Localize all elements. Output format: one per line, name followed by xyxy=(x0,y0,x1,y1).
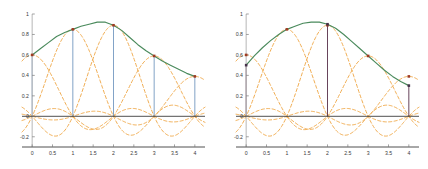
y-tick-label: 0.4 xyxy=(22,72,29,78)
y-tick-label: 0.2 xyxy=(22,93,29,99)
x-tick-label: 2.5 xyxy=(344,150,351,156)
y-tick-label: 1 xyxy=(26,11,29,17)
x-tick-label: 4 xyxy=(193,150,196,156)
x-tick-label: 1 xyxy=(285,150,288,156)
y-tick-label: 0.8 xyxy=(236,31,243,37)
plot-canvas-left: 00.511.522.533.54-0.200.20.40.60.81 xyxy=(0,0,214,169)
sample-marker xyxy=(153,55,156,58)
y-tick-label: 0.8 xyxy=(22,31,29,37)
sample-marker xyxy=(72,28,75,31)
sample-marker xyxy=(245,54,248,57)
x-tick-label: 3.5 xyxy=(385,150,392,156)
sample-marker xyxy=(367,55,370,58)
x-tick-label: 2 xyxy=(326,150,329,156)
plot-panel-left: 00.511.522.533.54-0.200.20.40.60.81 xyxy=(0,0,214,169)
x-tick-label: 0 xyxy=(31,150,34,156)
x-tick-label: 3 xyxy=(367,150,370,156)
x-tick-label: 2.5 xyxy=(130,150,137,156)
y-tick-label: 0 xyxy=(240,113,243,119)
y-tick-label: 0 xyxy=(26,113,29,119)
y-tick-label: -0.2 xyxy=(20,134,29,140)
stems-left xyxy=(32,25,195,116)
y-tick-label: 0.6 xyxy=(22,52,29,58)
y-tick-label: 1 xyxy=(240,11,243,17)
sample-marker xyxy=(286,28,289,31)
x-tick-label: 3.5 xyxy=(171,150,178,156)
tick-labels-left: 00.511.522.533.54-0.200.20.40.60.81 xyxy=(20,11,196,156)
sample-marker xyxy=(31,54,34,57)
x-tick-label: 2 xyxy=(112,150,115,156)
tick-labels-right: 00.511.522.533.54-0.200.20.40.60.81 xyxy=(234,11,410,156)
x-tick-label: 1.5 xyxy=(90,150,97,156)
sample-marker xyxy=(112,24,115,27)
plot-panel-right: 00.511.522.533.54-0.200.20.40.60.81 xyxy=(214,0,428,169)
resampled-marker xyxy=(245,64,248,67)
y-tick-label: 0.6 xyxy=(236,52,243,58)
x-tick-label: 0.5 xyxy=(49,150,56,156)
x-tick-label: 3 xyxy=(153,150,156,156)
sample-marker xyxy=(194,75,197,78)
y-tick-label: 0.2 xyxy=(236,93,243,99)
figure-root: 00.511.522.533.54-0.200.20.40.60.81 00.5… xyxy=(0,0,428,169)
y-tick-label: -0.2 xyxy=(234,134,243,140)
x-tick-label: 0 xyxy=(245,150,248,156)
y-tick-label: 0.4 xyxy=(236,72,243,78)
x-tick-label: 1.5 xyxy=(304,150,311,156)
resampled-marker xyxy=(326,23,329,26)
x-tick-label: 1 xyxy=(71,150,74,156)
sample-marker xyxy=(408,75,411,78)
x-tick-label: 4 xyxy=(407,150,410,156)
plot-canvas-right: 00.511.522.533.54-0.200.20.40.60.81 xyxy=(214,0,428,169)
resampled-marker xyxy=(408,84,411,87)
x-tick-label: 0.5 xyxy=(263,150,270,156)
